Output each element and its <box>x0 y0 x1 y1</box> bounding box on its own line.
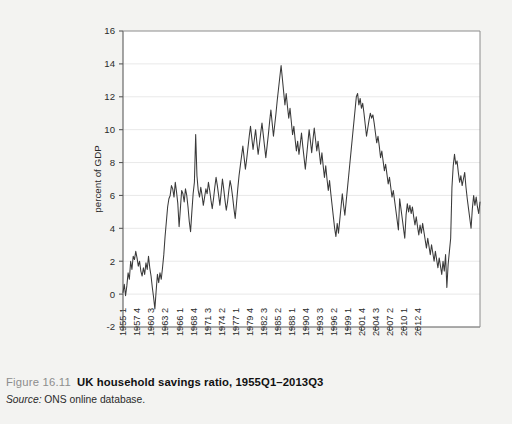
y-tick-label: 10 <box>104 124 115 135</box>
x-tick-label: 1971 3 <box>203 308 213 336</box>
x-tick-label: 1977 1 <box>231 308 241 336</box>
figure-title: UK household savings ratio, 1955Q1–2013Q… <box>77 376 323 388</box>
plot-background <box>123 31 480 327</box>
x-tick-label: 1985 2 <box>273 308 283 336</box>
x-tick-label: 1982 3 <box>259 308 269 336</box>
y-tick-label: 14 <box>104 58 115 69</box>
x-tick-label: 2001 4 <box>357 308 367 336</box>
y-tick-label: 12 <box>104 91 115 102</box>
x-tick-label: 2007 2 <box>385 308 395 336</box>
y-tick-label: 4 <box>110 223 116 234</box>
x-tick-label: 2010 1 <box>399 308 409 336</box>
y-tick-label: 6 <box>110 190 115 201</box>
x-tick-label: 2012 4 <box>413 308 423 336</box>
x-tick-label: 1993 3 <box>315 308 325 336</box>
x-tick-label: 1988 1 <box>287 308 297 336</box>
x-tick-label: 1979 4 <box>245 308 255 336</box>
source-label: Source: <box>6 394 42 405</box>
x-tick-label: 1963 2 <box>160 308 170 336</box>
y-tick-label: 0 <box>110 289 115 300</box>
x-tick-label: 1968 4 <box>189 308 199 336</box>
savings-ratio-line-chart: -20246810121416 1955 11957 41960 31963 2… <box>0 0 512 368</box>
x-tick-label: 1957 4 <box>132 308 142 336</box>
y-tick-label: -2 <box>106 321 115 332</box>
y-axis-title: percent of GDP <box>92 145 103 213</box>
chart-plot-region: -20246810121416 1955 11957 41960 31963 2… <box>0 0 512 368</box>
y-tick-label: 2 <box>110 256 115 267</box>
caption-source-line: Source: ONS online database. <box>6 394 145 405</box>
figure-number: Figure 16.11 <box>6 376 71 388</box>
x-tick-label: 1974 2 <box>217 308 227 336</box>
y-tick-label: 16 <box>104 25 115 36</box>
x-tick-label: 1999 1 <box>343 308 353 336</box>
x-tick-label: 1960 3 <box>146 308 156 336</box>
x-tick-label: 1966 1 <box>175 308 185 336</box>
caption-title-line: Figure 16.11UK household savings ratio, … <box>6 376 323 388</box>
y-tick-label: 8 <box>110 157 115 168</box>
figure-caption: Figure 16.11UK household savings ratio, … <box>0 368 512 424</box>
x-tick-label: 1996 2 <box>329 308 339 336</box>
source-text: ONS online database. <box>42 394 146 405</box>
figure-container: -20246810121416 1955 11957 41960 31963 2… <box>0 0 512 424</box>
x-tick-label: 2004 3 <box>371 308 381 336</box>
x-tick-label: 1990 4 <box>301 308 311 336</box>
